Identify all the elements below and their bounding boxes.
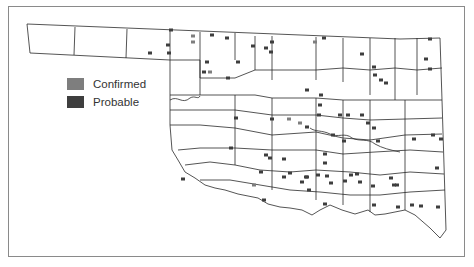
probable-case-marker [439, 138, 443, 141]
probable-case-marker [229, 147, 233, 150]
probable-case-marker [166, 44, 170, 47]
confirmed-case-marker [208, 71, 212, 74]
probable-case-marker [389, 177, 393, 180]
county-borders [27, 24, 446, 238]
probable-case-marker [270, 41, 274, 44]
probable-case-marker [264, 47, 268, 50]
probable-case-marker [323, 153, 327, 156]
probable-case-marker [282, 176, 286, 179]
probable-case-marker [342, 140, 346, 143]
probable-case-marker [318, 104, 322, 107]
confirmed-case-marker [313, 41, 317, 44]
probable-case-marker [305, 126, 309, 129]
probable-case-marker [262, 199, 266, 202]
probable-case-marker [412, 138, 416, 141]
probable-case-marker [396, 206, 400, 209]
probable-case-marker [268, 157, 272, 160]
probable-case-marker [325, 175, 329, 178]
probable-case-marker [410, 204, 414, 207]
confirmed-swatch-icon [67, 78, 84, 90]
probable-case-marker [373, 74, 377, 77]
oklahoma-county-map [0, 0, 474, 267]
legend-item-probable: Probable [67, 93, 146, 110]
probable-case-marker [372, 204, 376, 207]
confirmed-case-marker [287, 118, 291, 121]
probable-case-marker [349, 174, 353, 177]
probable-case-marker [225, 37, 229, 40]
probable-case-marker [322, 37, 326, 40]
probable-case-marker [419, 205, 423, 208]
probable-case-marker [329, 182, 333, 185]
probable-case-marker [282, 158, 286, 161]
probable-case-marker [300, 181, 304, 184]
confirmed-case-marker [252, 184, 256, 187]
case-markers [148, 29, 443, 209]
probable-case-marker [435, 167, 439, 170]
probable-case-marker [366, 122, 370, 125]
probable-case-marker [323, 203, 327, 206]
probable-case-marker [360, 53, 364, 56]
probable-case-marker [424, 58, 428, 61]
probable-case-marker [436, 206, 440, 209]
probable-case-marker [372, 66, 376, 69]
probable-case-marker [264, 154, 268, 157]
probable-case-marker [167, 52, 171, 55]
probable-case-marker [331, 134, 335, 137]
probable-case-marker [358, 181, 362, 184]
probable-case-marker [428, 38, 432, 41]
probable-case-marker [305, 89, 309, 92]
probable-case-marker [428, 68, 432, 71]
probable-case-marker [323, 162, 327, 165]
probable-case-marker [343, 180, 347, 183]
probable-case-marker [431, 134, 435, 137]
probable-case-marker [251, 45, 255, 48]
probable-case-marker [371, 185, 375, 188]
legend-label: Probable [93, 96, 139, 108]
probable-case-marker [148, 52, 152, 55]
confirmed-case-marker [191, 41, 195, 44]
probable-case-marker [205, 61, 209, 64]
probable-swatch-icon [67, 96, 84, 108]
probable-case-marker [372, 127, 376, 130]
probable-case-marker [319, 94, 323, 97]
probable-case-marker [355, 173, 359, 176]
probable-case-marker [307, 189, 311, 192]
probable-case-marker [181, 178, 185, 181]
probable-case-marker [259, 171, 263, 174]
probable-case-marker [360, 114, 364, 117]
probable-case-marker [392, 184, 396, 187]
probable-case-marker [317, 114, 321, 117]
confirmed-case-marker [298, 122, 302, 125]
probable-case-marker [379, 79, 383, 82]
probable-case-marker [346, 114, 350, 117]
legend: Confirmed Probable [67, 75, 146, 111]
probable-case-marker [376, 140, 380, 143]
probable-case-marker [269, 51, 273, 54]
probable-case-marker [202, 71, 206, 74]
probable-case-marker [288, 172, 292, 175]
legend-item-confirmed: Confirmed [67, 75, 146, 92]
probable-case-marker [270, 118, 274, 121]
probable-case-marker [338, 114, 342, 117]
probable-case-marker [234, 117, 238, 120]
legend-label: Confirmed [93, 78, 146, 90]
probable-case-marker [316, 174, 320, 177]
probable-case-marker [384, 82, 388, 85]
probable-case-marker [169, 29, 173, 32]
probable-case-marker [304, 176, 308, 179]
probable-case-marker [226, 77, 230, 80]
confirmed-case-marker [191, 35, 195, 38]
state-outline [27, 24, 446, 238]
probable-case-marker [236, 61, 240, 64]
probable-case-marker [210, 34, 214, 37]
